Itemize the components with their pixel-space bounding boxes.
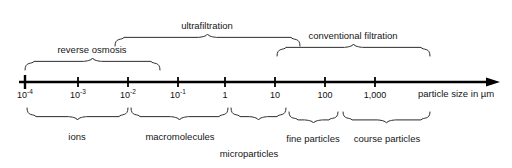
label-fine-particles: fine particles	[286, 133, 339, 144]
brace-course-particles	[343, 112, 430, 123]
tick-label-1,000: 1,000	[364, 90, 387, 101]
tick-label-1: 1	[222, 90, 227, 101]
label-macromolecules: macromolecules	[145, 131, 214, 142]
tick-label-10-4: 10-4	[17, 90, 33, 101]
label-microparticles: microparticles	[220, 148, 279, 159]
brace-reverse-osmosis	[25, 58, 160, 70]
brace-ions	[27, 108, 128, 120]
label-course-particles: course particles	[354, 133, 421, 144]
bottom-braces-group	[27, 108, 430, 123]
axis-group	[19, 75, 500, 89]
brace-ultrafiltration	[115, 34, 300, 46]
brace-microparticles	[231, 108, 286, 120]
label-conventional-filtration: conventional filtration	[308, 30, 397, 41]
tick-label-10-2: 10-2	[120, 90, 136, 101]
axis-arrow-head	[486, 78, 500, 87]
brace-fine-particles	[289, 112, 338, 123]
axis-caption: particle size in µm	[418, 88, 494, 99]
diagram-vector-layer	[0, 0, 512, 168]
tick-label-10-3: 10-3	[70, 90, 86, 101]
label-reverse-osmosis: reverse osmosis	[57, 44, 126, 55]
brace-macromolecules	[131, 108, 228, 120]
label-ultrafiltration: ultrafiltration	[181, 20, 233, 31]
tick-label-10: 10	[270, 90, 280, 101]
tick-label-10-1: 10-1	[170, 90, 186, 101]
label-ions: ions	[68, 131, 85, 142]
particle-size-filtration-diagram: reverse osmosisultrafiltrationconvention…	[0, 0, 512, 168]
tick-label-100: 100	[317, 90, 332, 101]
